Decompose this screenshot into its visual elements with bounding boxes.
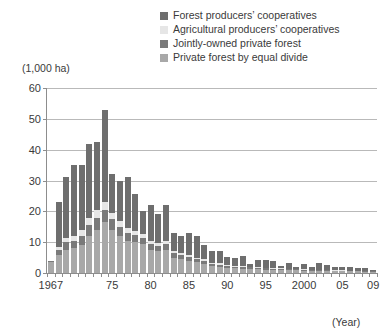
bar-column	[201, 245, 207, 273]
bars-group	[47, 88, 377, 273]
bar-segment	[86, 236, 92, 273]
forest-cooperatives-stacked-bar-chart: Forest producers’ cooperativesAgricultur…	[0, 0, 389, 336]
x-axis-tick-mark	[131, 273, 132, 277]
bar-segment	[140, 244, 146, 273]
x-axis-tick-mark	[85, 273, 86, 277]
bar-segment	[71, 241, 77, 249]
bar-segment	[79, 245, 85, 273]
legend-swatch-icon	[160, 40, 168, 48]
legend-swatch-icon	[160, 12, 168, 20]
x-axis-tick-mark	[116, 273, 117, 277]
x-axis-tick-mark	[47, 273, 48, 277]
legend-swatch-icon	[160, 26, 168, 34]
y-axis-tick-label: 10	[29, 236, 41, 248]
bar-segment	[109, 174, 115, 213]
x-axis-tick-mark	[377, 273, 378, 277]
bar-segment	[232, 258, 238, 266]
bar-segment	[94, 230, 100, 273]
bar-segment	[178, 259, 184, 273]
bar-segment	[263, 260, 269, 267]
bar-segment	[201, 245, 207, 259]
bar-segment	[155, 251, 161, 273]
plot-area: 0102030405060 1967758085909520000509	[46, 88, 377, 274]
bar-column	[71, 165, 77, 273]
x-axis-tick-label: 95	[260, 279, 272, 291]
bar-column	[56, 202, 62, 273]
x-axis-tick-mark	[285, 273, 286, 277]
x-axis-ticks-group: 1967758085909520000509	[47, 273, 377, 278]
bar-segment	[102, 110, 108, 203]
bar-segment	[102, 202, 108, 210]
x-axis-tick-mark	[139, 273, 140, 277]
bar-segment	[140, 211, 146, 234]
x-axis-tick-mark	[339, 273, 340, 277]
bar-column	[109, 174, 115, 273]
bar-segment	[132, 242, 138, 273]
bar-column	[255, 260, 261, 273]
bar-column	[117, 181, 123, 273]
bar-segment	[94, 142, 100, 210]
bar-segment	[125, 233, 131, 241]
bar-column	[148, 205, 154, 273]
bar-column	[94, 142, 100, 273]
legend-item: Jointly-owned private forest	[160, 37, 388, 50]
x-axis-tick-mark	[224, 273, 225, 277]
bar-column	[278, 266, 284, 273]
bar-segment	[201, 264, 207, 273]
x-axis-tick-label: 05	[336, 279, 348, 291]
x-axis-tick-mark	[369, 273, 370, 277]
bar-column	[63, 177, 69, 273]
x-axis-tick-mark	[354, 273, 355, 277]
x-axis-tick-mark	[108, 273, 109, 277]
bar-segment	[63, 242, 69, 250]
x-axis-tick-mark	[101, 273, 102, 277]
bar-segment	[86, 218, 92, 226]
bar-column	[263, 260, 269, 273]
bar-segment	[148, 205, 154, 240]
bar-segment	[102, 222, 108, 273]
x-axis-tick-mark	[78, 273, 79, 277]
x-axis-tick-mark	[62, 273, 63, 277]
bar-segment	[132, 194, 138, 231]
x-axis-tick-mark	[147, 273, 148, 277]
bar-segment	[178, 236, 184, 253]
bar-column	[79, 165, 85, 273]
x-axis-tick-mark	[239, 273, 240, 277]
bar-column	[247, 264, 253, 273]
x-axis-tick-label: 85	[183, 279, 195, 291]
x-axis-tick-label: 75	[106, 279, 118, 291]
y-axis-tick-label: 30	[29, 175, 41, 187]
bar-segment	[163, 250, 169, 273]
x-axis-tick-mark	[270, 273, 271, 277]
bar-segment	[194, 236, 200, 258]
y-axis-unit-label: (1,000 ha)	[22, 62, 70, 74]
bar-segment	[209, 251, 215, 262]
bar-segment	[125, 177, 131, 228]
x-axis-tick-mark	[154, 273, 155, 277]
bar-segment	[79, 236, 85, 245]
legend-item-label: Private forest by equal divide	[173, 52, 308, 63]
x-axis-tick-mark	[93, 273, 94, 277]
bar-column	[140, 211, 146, 273]
bar-segment	[255, 260, 261, 267]
bar-segment	[186, 233, 192, 255]
bar-column	[324, 265, 330, 273]
bar-column	[240, 256, 246, 273]
bar-segment	[117, 236, 123, 273]
bar-column	[86, 144, 92, 273]
x-axis-tick-mark	[293, 273, 294, 277]
legend-item-label: Jointly-owned private forest	[173, 38, 301, 49]
bar-segment	[86, 144, 92, 218]
x-axis-tick-mark	[162, 273, 163, 277]
bar-segment	[117, 227, 123, 236]
bar-segment	[63, 250, 69, 273]
y-axis-tick-label: 20	[29, 205, 41, 217]
y-axis-tick-label: 50	[29, 113, 41, 125]
x-axis-tick-mark	[254, 273, 255, 277]
bar-segment	[109, 230, 115, 273]
legend-swatch-icon	[160, 54, 168, 62]
x-axis-tick-mark	[231, 273, 232, 277]
x-axis-tick-mark	[331, 273, 332, 277]
legend-item: Forest producers’ cooperatives	[160, 9, 388, 22]
bar-segment	[270, 261, 276, 268]
